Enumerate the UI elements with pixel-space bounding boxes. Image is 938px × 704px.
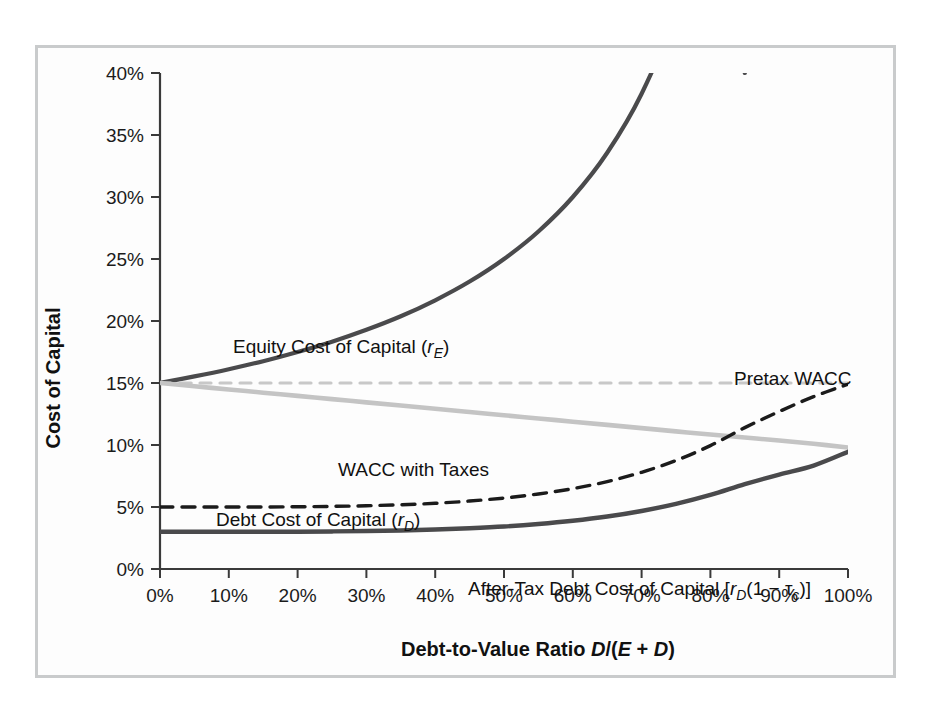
series-label-wacc-with-taxes: WACC with Taxes [338, 459, 489, 480]
y-axis-title: Cost of Capital [42, 307, 64, 448]
x-tick-label: 30% [347, 585, 385, 606]
series-label-pretax-wacc: Pretax WACC [734, 368, 852, 389]
x-axis-ticks [160, 569, 848, 578]
cost-of-capital-chart: 0%5%10%15%20%25%30%35%40% 0%10%20%30%40%… [38, 48, 893, 675]
y-axis-tick-labels: 0%5%10%15%20%25%30%35%40% [106, 63, 144, 580]
y-tick-label: 20% [106, 311, 144, 332]
y-axis-ticks [151, 73, 160, 569]
y-tick-label: 0% [117, 559, 145, 580]
y-tick-label: 25% [106, 249, 144, 270]
y-tick-label: 35% [106, 125, 144, 146]
x-axis-title: Debt-to-Value Ratio D/(E + D) [401, 638, 675, 660]
series-curves [160, 48, 848, 532]
y-tick-label: 5% [117, 497, 145, 518]
series-line-debt-cost-of-capital [160, 384, 848, 507]
x-tick-label: 10% [210, 585, 248, 606]
series-line-equity-cost-of-capital [160, 48, 745, 383]
x-tick-label: 0% [146, 585, 174, 606]
series-line-wacc-with-taxes [160, 383, 848, 447]
series-annotations: Equity Cost of Capital (rE)Pretax WACCWA… [216, 336, 852, 603]
series-label-equity-cost-of-capital: Equity Cost of Capital (rE) [233, 336, 449, 361]
y-tick-label: 30% [106, 187, 144, 208]
y-tick-label: 15% [106, 373, 144, 394]
x-tick-label: 40% [416, 585, 454, 606]
y-tick-label: 40% [106, 63, 144, 84]
y-tick-label: 10% [106, 435, 144, 456]
figure-panel: 0%5%10%15%20%25%30%35%40% 0%10%20%30%40%… [35, 45, 896, 678]
x-tick-label: 20% [279, 585, 317, 606]
x-tick-label: 100% [824, 585, 873, 606]
